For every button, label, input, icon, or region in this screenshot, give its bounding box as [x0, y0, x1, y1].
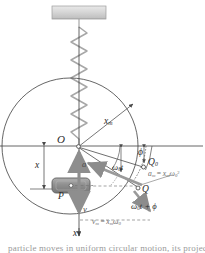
ceiling-support-bar: [52, 6, 106, 19]
velocity-magnitude-label: vm = xmω0: [92, 218, 121, 227]
angle-omega0t-tail: t: [121, 162, 123, 172]
origin-marker: [77, 145, 81, 149]
angle-phi-label: ϕ: [138, 148, 143, 158]
point-q0-label: Q0: [148, 158, 158, 168]
vector-v-label: v: [83, 205, 87, 214]
am-rhs2-sup: 2: [177, 170, 179, 175]
block-point-label: P: [58, 192, 64, 202]
caption-text: particle moves in uniform circular motio…: [8, 244, 205, 253]
vector-a-label: a: [82, 160, 86, 169]
figure-canvas: [0, 0, 205, 253]
radius-xm-label: xm: [104, 117, 113, 127]
physics-figure: O xm x x P Q0 Q ϕ ω0t ω0t + ϕ a v am = x…: [0, 0, 205, 253]
vm-rhs2-sub: 0: [119, 221, 121, 226]
point-q0-sub: 0: [155, 161, 158, 167]
vm-rhs2-base: ω: [113, 217, 118, 226]
displacement-x-label: x: [35, 161, 39, 171]
angle-omega0t-plus-phi-label: ω0t + ϕ: [131, 202, 157, 212]
omega0t-phi-tail: t + ϕ: [140, 201, 157, 211]
angle-omega0t-label: ω0t: [112, 163, 123, 173]
point-q-label: Q: [142, 185, 149, 195]
point-q-marker: [136, 186, 140, 190]
axis-x-bottom-label: x: [73, 229, 77, 239]
phase-angle-arc-total: [110, 175, 118, 186]
caption-strip: particle moves in uniform circular motio…: [0, 244, 205, 253]
point-q0-base: Q: [148, 157, 155, 167]
radius-xm-sub: m: [108, 120, 112, 126]
accel-magnitude-label: am = xmω02: [148, 170, 180, 179]
point-q0-marker: [142, 165, 146, 169]
origin-label: O: [57, 134, 65, 145]
